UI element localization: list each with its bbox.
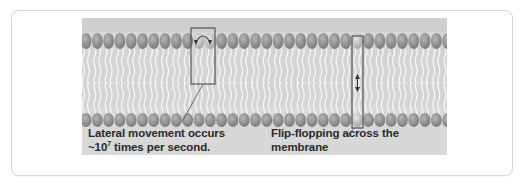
lateral-caption-line2: ~107 times per second.	[88, 140, 225, 154]
flip-flop-caption: Flip-flopping across the membrane is rar…	[271, 126, 447, 155]
lateral-movement-caption: Lateral movement occurs ~107 times per s…	[88, 126, 225, 154]
flipflop-caption-line1: Flip-flopping across the membrane	[271, 126, 447, 154]
lateral-caption-line1: Lateral movement occurs	[88, 126, 225, 140]
membrane-diagram: Lateral movement occurs ~107 times per s…	[82, 18, 447, 155]
flipflop-caption-line2: is rare (~ once per month).	[271, 154, 447, 155]
